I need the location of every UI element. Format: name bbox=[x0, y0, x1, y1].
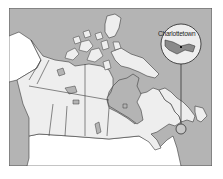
map-caption bbox=[10, 170, 210, 176]
charlottetown-marker bbox=[180, 46, 182, 48]
charlottetown-label: Charlottetown bbox=[158, 30, 196, 37]
pei-locator-circle bbox=[176, 124, 186, 134]
